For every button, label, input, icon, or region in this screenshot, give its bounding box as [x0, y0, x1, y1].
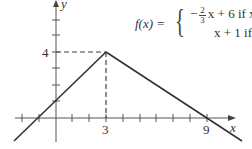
brace-icon: { [175, 4, 185, 38]
y-axis-label: y [61, 0, 67, 12]
function-name: f(x) = [135, 16, 165, 32]
case-2: x + 1 if x < 3 [214, 25, 252, 41]
y-axis-arrow-icon [53, 0, 59, 7]
x-tick-label-3: 3 [102, 122, 109, 138]
fraction: 23 [199, 6, 206, 25]
y-tick-label-4: 4 [42, 45, 49, 61]
x-axis-label: x [230, 120, 236, 136]
line-x-plus-1 [14, 52, 106, 141]
case-1: −23x + 6 if x ≥ 3 [190, 6, 252, 25]
line-neg-two-thirds-x-plus-6 [106, 52, 242, 141]
x-tick-label-9: 9 [203, 122, 210, 138]
